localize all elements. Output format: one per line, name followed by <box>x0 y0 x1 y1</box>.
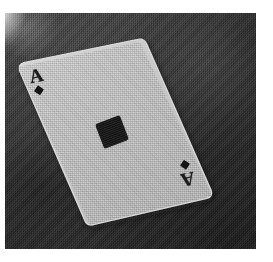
scan-margin-left <box>0 0 5 262</box>
scan-margin-top <box>0 0 273 13</box>
photograph-frame: A A <box>0 0 273 262</box>
playing-card <box>0 0 273 262</box>
scan-margin-bottom <box>0 249 273 262</box>
card-face-shape <box>19 39 211 225</box>
scan-margin-right <box>256 0 273 262</box>
